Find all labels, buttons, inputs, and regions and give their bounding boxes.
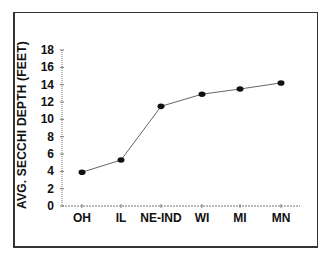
data-point	[278, 80, 285, 86]
x-tick-label: WI	[195, 211, 210, 225]
y-tick-label: 8	[47, 130, 54, 144]
y-tick-label: 12	[41, 95, 55, 109]
y-tick-label: 2	[47, 182, 54, 196]
x-tick-label: MI	[233, 211, 246, 225]
y-tick-label: 0	[47, 199, 54, 213]
y-tick-label: 18	[41, 43, 55, 57]
x-tick-label: MN	[272, 211, 291, 225]
y-tick-label: 16	[41, 60, 55, 74]
line-chart: 024681012141618OHILNE-INDWIMIMN	[0, 0, 331, 257]
x-tick-label: NE-IND	[140, 211, 182, 225]
x-tick-label: OH	[73, 211, 91, 225]
y-tick-label: 4	[47, 164, 54, 178]
data-point	[237, 86, 244, 92]
data-point	[79, 169, 86, 175]
y-tick-label: 14	[41, 78, 55, 92]
data-line	[82, 83, 281, 172]
x-tick-label: IL	[116, 211, 127, 225]
data-point	[158, 104, 165, 110]
y-tick-label: 10	[41, 112, 55, 126]
data-point	[199, 91, 206, 97]
data-point	[118, 157, 125, 163]
y-tick-label: 6	[47, 147, 54, 161]
